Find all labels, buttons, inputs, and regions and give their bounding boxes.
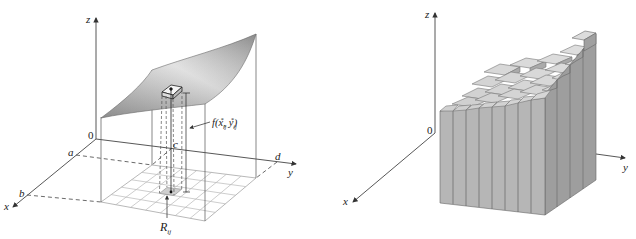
y-axis: [596, 154, 625, 158]
height-label: f(xij*, yij*): [212, 117, 238, 130]
height-label-pointer: [190, 122, 210, 128]
box-front-face: [440, 98, 545, 215]
x-axis-label: x: [342, 195, 348, 207]
bound-c-label: c: [173, 138, 178, 150]
left-axes: [13, 18, 296, 207]
y-axis: [96, 139, 296, 164]
x-axis: [353, 133, 435, 202]
right-figure: z y x 0: [342, 8, 628, 215]
bound-d-label: d: [275, 150, 281, 162]
y-axis-label: y: [287, 166, 293, 178]
region-grid: [101, 165, 256, 221]
y-axis-label: y: [622, 161, 628, 173]
x-axis-label: x: [3, 200, 9, 212]
origin-label: 0: [427, 124, 433, 136]
x-axis: [13, 139, 96, 207]
bound-b-label: b: [19, 187, 25, 199]
height-indicator: [183, 93, 190, 192]
diagram-canvas: z y x 0 a b c d f(xij*, yij*) Rij: [0, 0, 636, 239]
z-axis-label: z: [424, 8, 430, 20]
region-rij-label: Rij: [159, 220, 171, 236]
sample-point: [170, 191, 173, 194]
bound-a-label: a: [68, 146, 74, 158]
origin-label: 0: [88, 129, 94, 141]
left-figure: z y x 0 a b c d f(xij*, yij*) Rij: [3, 13, 296, 236]
z-axis-label: z: [85, 13, 91, 25]
surface-shade: [101, 34, 256, 118]
